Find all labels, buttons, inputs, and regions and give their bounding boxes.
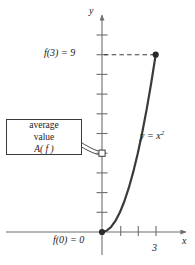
x-tick-label-3: 3 <box>152 243 157 253</box>
average-value-marker <box>99 150 105 156</box>
x-axis-label: x <box>182 236 186 246</box>
parabola-curve-actual <box>102 55 156 232</box>
callout-line-2-function: A( f ) <box>34 143 55 155</box>
curve-equation-exponent: 2 <box>161 129 165 137</box>
label-f-of-0-equals-0: f(0) = 0 <box>53 235 84 245</box>
average-value-callout-box: average value A( f ) <box>6 119 82 155</box>
curve-equation-label: y = x2 <box>140 130 164 141</box>
x-axis-ticks <box>121 226 156 236</box>
curve-equation-base: y = x <box>140 130 161 141</box>
callout-line-2-word: value <box>34 131 55 143</box>
label-f-of-3-equals-9: f(3) = 9 <box>44 48 75 58</box>
callout-line-1: average <box>29 119 59 131</box>
point-f3-marker <box>153 52 159 58</box>
point-f0-marker <box>99 229 105 235</box>
average-value-figure: y x f(3) = 9 f(0) = 0 3 y = x2 average v… <box>0 0 195 265</box>
callout-line-2: value A( f ) <box>34 131 55 155</box>
y-axis-label: y <box>89 6 93 16</box>
